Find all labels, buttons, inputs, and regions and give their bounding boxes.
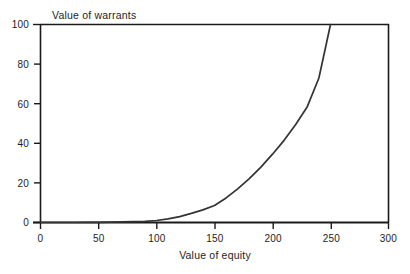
x-tick-label-250: 250: [323, 233, 340, 244]
warrant-value-curve: [41, 25, 331, 223]
y-axis-ticks: [33, 25, 40, 223]
plot-frame: [33, 24, 389, 223]
x-tick-label-100: 100: [148, 233, 165, 244]
y-tick-label-80: 80: [4, 59, 29, 70]
x-tick-label-0: 0: [38, 233, 44, 244]
warrant-value-chart: 100 80 60 40 20 0 0 50 100 150 200 250 3…: [0, 0, 410, 274]
y-tick-label-60: 60: [4, 99, 29, 110]
y-tick-label-40: 40: [4, 138, 29, 149]
y-tick-label-20: 20: [4, 178, 29, 189]
chart-canvas: [0, 0, 410, 274]
y-axis-title: Value of warrants: [52, 9, 136, 21]
y-tick-label-0: 0: [4, 217, 29, 228]
x-tick-label-200: 200: [265, 233, 282, 244]
x-tick-label-150: 150: [206, 233, 223, 244]
x-tick-label-50: 50: [93, 233, 105, 244]
x-tick-label-300: 300: [380, 233, 397, 244]
y-tick-label-100: 100: [4, 19, 29, 30]
x-axis-title: Value of equity: [179, 249, 251, 261]
x-axis-ticks: [41, 223, 389, 230]
